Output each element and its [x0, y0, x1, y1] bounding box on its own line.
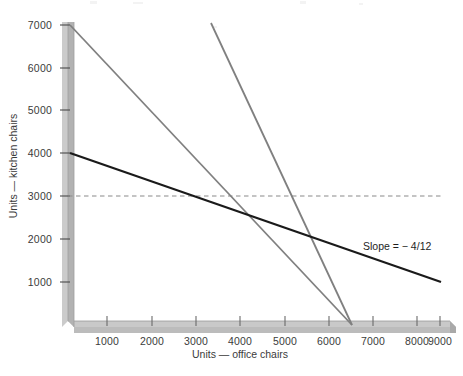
x-axis-top-face [68, 321, 456, 327]
x-tick-label: 5000 [261, 335, 309, 347]
y-tick-label: 6000 [0, 62, 52, 74]
x-tick-label: 2000 [128, 335, 176, 347]
black-constraint-line [70, 153, 441, 282]
y-tick-label: 1000 [0, 276, 52, 288]
y-tick-label: 7000 [0, 19, 52, 31]
plot-area [0, 0, 463, 376]
x-axis-title: Units — office chairs [140, 348, 340, 360]
gray-shallow-line [70, 25, 352, 325]
x-tick-label: 4000 [216, 335, 264, 347]
x-axis-front-face [74, 327, 456, 333]
chart-figure: 7000 6000 5000 4000 3000 2000 1000 1000 … [0, 0, 463, 376]
x-tick-label: 6000 [305, 335, 353, 347]
x-tick-label: 7000 [349, 335, 397, 347]
x-tick-label: 9000 [416, 335, 463, 347]
x-axis-end-taper [450, 321, 456, 333]
x-tick-label: 3000 [172, 335, 220, 347]
x-tick-label: 1000 [83, 335, 131, 347]
y-axis-title: Units — kitchen chairs [7, 106, 19, 226]
y-tick-label: 2000 [0, 233, 52, 245]
slope-annotation: Slope = − 4/12 [363, 240, 431, 252]
gray-steep-line [211, 23, 352, 325]
